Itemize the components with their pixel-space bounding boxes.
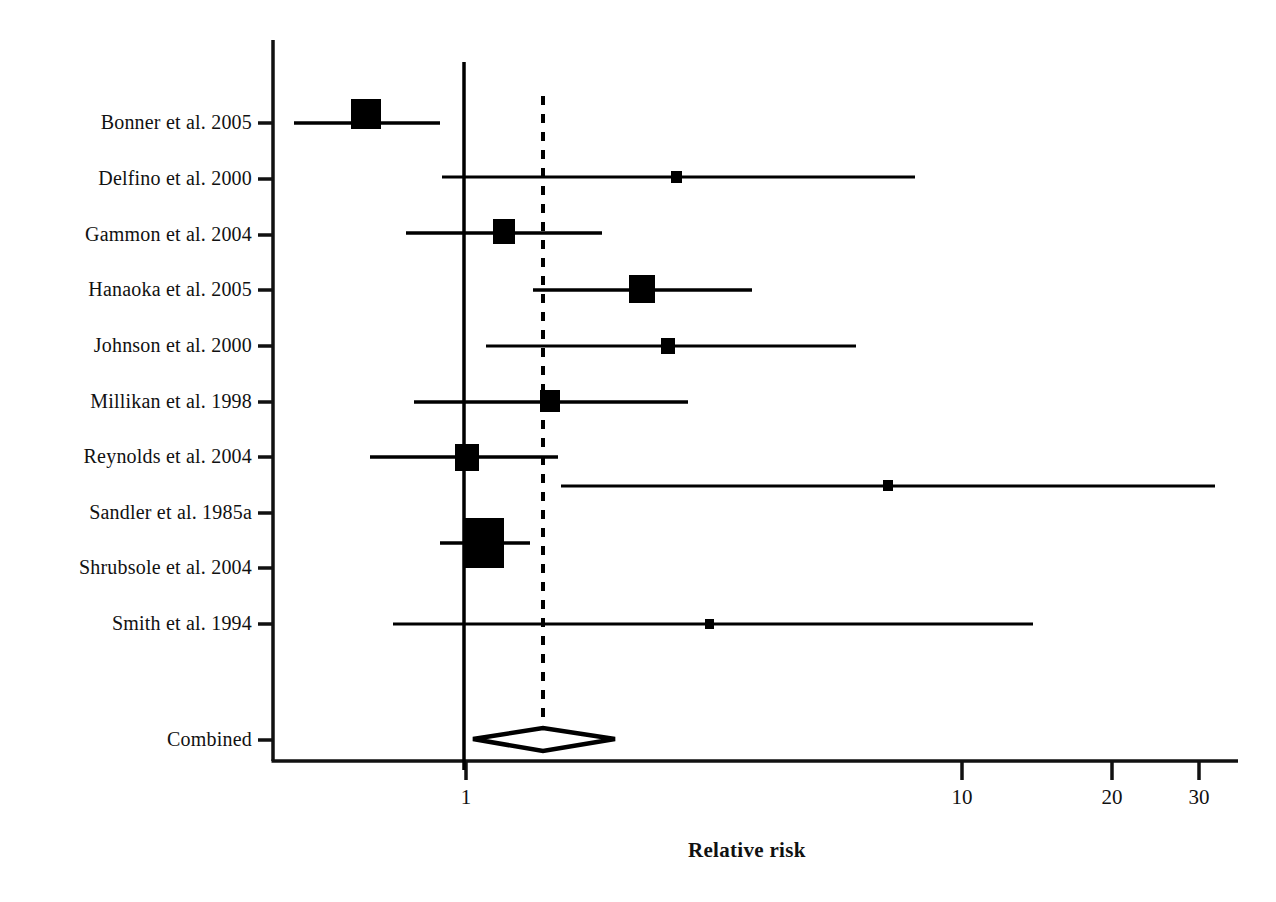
effect-marker xyxy=(671,171,682,183)
forest-row-shrubsole xyxy=(440,518,530,568)
study-label-millikan: Millikan et al. 1998 xyxy=(0,390,252,413)
study-label-reynolds: Reynolds et al. 2004 xyxy=(0,445,252,468)
study-label-delfino: Delfino et al. 2000 xyxy=(0,167,252,190)
effect-marker xyxy=(463,518,504,568)
effect-marker xyxy=(883,480,893,491)
x-axis-ticks xyxy=(466,761,1199,780)
x-tick-label-10: 10 xyxy=(932,785,992,810)
forest-row-sandler xyxy=(561,480,1215,491)
x-tick-label-20: 20 xyxy=(1082,785,1142,810)
forest-plot: Bonner et al. 2005 Delfino et al. 2000 G… xyxy=(0,0,1276,902)
effect-marker xyxy=(661,338,675,354)
study-label-bonner: Bonner et al. 2005 xyxy=(0,111,252,134)
study-label-shrubsole: Shrubsole et al. 2004 xyxy=(0,556,252,579)
x-tick-label-1: 1 xyxy=(436,785,496,810)
study-label-gammon: Gammon et al. 2004 xyxy=(0,223,252,246)
x-tick-label-30: 30 xyxy=(1169,785,1229,810)
effect-marker xyxy=(629,275,655,303)
study-label-hanaoka: Hanaoka et al. 2005 xyxy=(0,278,252,301)
effect-marker xyxy=(455,444,479,471)
effect-marker xyxy=(540,390,560,412)
study-label-smith: Smith et al. 1994 xyxy=(0,612,252,635)
effect-marker xyxy=(351,99,381,129)
forest-row-combined xyxy=(473,728,615,751)
forest-row-bonner xyxy=(294,99,440,129)
effect-marker xyxy=(705,619,714,629)
forest-row-delfino xyxy=(442,171,915,183)
study-label-combined: Combined xyxy=(0,728,252,751)
forest-row-reynolds xyxy=(370,444,558,471)
forest-row-millikan xyxy=(414,390,688,412)
x-axis-title: Relative risk xyxy=(688,838,806,863)
forest-row-gammon xyxy=(406,219,602,244)
study-label-johnson: Johnson et al. 2000 xyxy=(0,334,252,357)
summary-diamond xyxy=(473,728,615,751)
effect-marker xyxy=(493,219,515,244)
forest-row-hanaoka xyxy=(533,275,752,303)
study-label-sandler: Sandler et al. 1985a xyxy=(0,501,252,524)
forest-row-smith xyxy=(393,619,1033,629)
